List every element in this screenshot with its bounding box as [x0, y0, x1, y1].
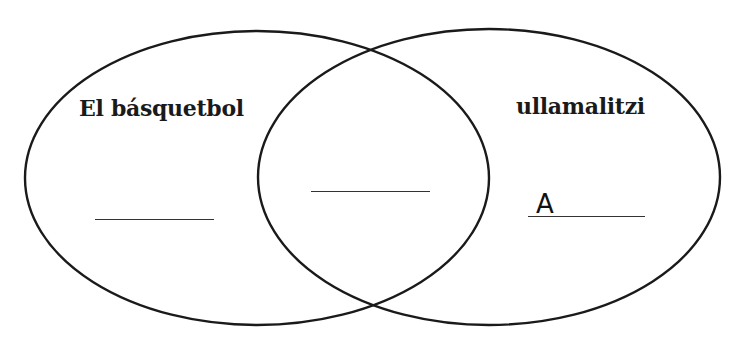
- right-only-answer: A: [536, 191, 554, 217]
- left-only-blank[interactable]: [95, 219, 214, 220]
- left-set-label: El básquetbol: [79, 95, 244, 121]
- intersection-blank[interactable]: [311, 191, 430, 192]
- venn-diagram: El básquetbol ullamalitzi A: [0, 0, 749, 337]
- right-set-label: ullamalitzi: [516, 93, 645, 119]
- venn-circles: [0, 0, 749, 337]
